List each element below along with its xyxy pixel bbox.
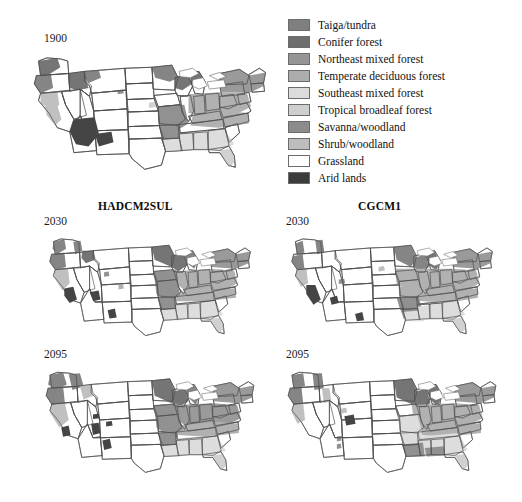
cgcm1-2030-map	[268, 229, 518, 339]
us-biome-map-1900	[26, 46, 276, 176]
baseline-1900-map	[26, 46, 276, 176]
panel-year-label-had-2095: 2095	[44, 348, 67, 360]
legend-item-grassland: Grassland	[288, 152, 488, 169]
legend-swatch-savanna-woodland	[288, 121, 310, 133]
baseline-1900-panel: 1900	[26, 32, 276, 177]
legend-item-northeast-mixed-forest: Northeast mixed forest	[288, 50, 488, 67]
panel-year-label-cgcm-2095: 2095	[286, 348, 309, 360]
legend-label-grassland: Grassland	[318, 155, 364, 167]
us-biome-map-cgcm-2030	[268, 229, 518, 341]
legend-label-northeast-mixed-forest: Northeast mixed forest	[318, 53, 423, 65]
us-biome-map-had-2030	[26, 229, 276, 341]
legend-item-savanna-woodland: Savanna/woodland	[288, 118, 488, 135]
legend-swatch-grassland	[288, 155, 310, 167]
cgcm1-2030-panel: 2030	[268, 215, 518, 340]
legend-swatch-shrub-woodland	[288, 138, 310, 150]
legend-label-savanna-woodland: Savanna/woodland	[318, 121, 406, 133]
legend-item-taiga-tundra: Taiga/tundra	[288, 16, 488, 33]
legend-swatch-northeast-mixed-forest	[288, 53, 310, 65]
legend-item-conifer-forest: Conifer forest	[288, 33, 488, 50]
column-header-cgcm1: CGCM1	[358, 200, 401, 212]
hadcm2sul-2030-map	[26, 229, 276, 339]
hadcm2sul-2030-panel: 2030	[26, 215, 276, 340]
legend-item-arid-lands: Arid lands	[288, 169, 488, 186]
legend-label-arid-lands: Arid lands	[318, 172, 366, 184]
biome-projection-figure: Taiga/tundra Conifer forest Northeast mi…	[0, 0, 522, 502]
legend-item-tropical-broadleaf-forest: Tropical broadleaf forest	[288, 101, 488, 118]
legend-item-southeast-mixed-forest: Southeast mixed forest	[288, 84, 488, 101]
legend-label-taiga-tundra: Taiga/tundra	[318, 19, 376, 31]
legend-label-southeast-mixed-forest: Southeast mixed forest	[318, 87, 423, 99]
legend-label-conifer-forest: Conifer forest	[318, 36, 382, 48]
column-header-hadcm2sul: HADCM2SUL	[98, 200, 173, 212]
us-biome-map-cgcm-2095	[268, 362, 518, 478]
hadcm2sul-2095-map	[26, 362, 276, 477]
panel-year-label-cgcm-2030: 2030	[286, 215, 309, 227]
panel-year-label-1900: 1900	[44, 32, 67, 44]
legend-swatch-conifer-forest	[288, 36, 310, 48]
legend-swatch-arid-lands	[288, 172, 310, 184]
panel-year-label-had-2030: 2030	[44, 215, 67, 227]
legend-swatch-temperate-deciduous-forest	[288, 70, 310, 82]
hadcm2sul-2095-panel: 2095	[26, 348, 276, 478]
legend-label-temperate-deciduous-forest: Temperate deciduous forest	[318, 70, 445, 82]
legend-swatch-tropical-broadleaf-forest	[288, 104, 310, 116]
cgcm1-2095-panel: 2095	[268, 348, 518, 478]
biome-legend: Taiga/tundra Conifer forest Northeast mi…	[288, 16, 488, 186]
legend-label-tropical-broadleaf-forest: Tropical broadleaf forest	[318, 104, 432, 116]
legend-label-shrub-woodland: Shrub/woodland	[318, 138, 394, 150]
legend-item-shrub-woodland: Shrub/woodland	[288, 135, 488, 152]
legend-swatch-southeast-mixed-forest	[288, 87, 310, 99]
legend-item-temperate-deciduous-forest: Temperate deciduous forest	[288, 67, 488, 84]
legend-swatch-taiga-tundra	[288, 19, 310, 31]
us-biome-map-had-2095	[26, 362, 276, 478]
cgcm1-2095-map	[268, 362, 518, 477]
